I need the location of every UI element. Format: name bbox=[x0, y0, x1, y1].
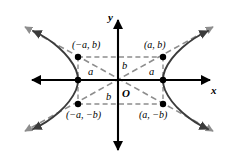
point-label-bottom-right: (a, −b) bbox=[139, 110, 167, 120]
diagram-canvas bbox=[0, 0, 236, 161]
segment-label-b-upper: b bbox=[122, 61, 127, 72]
vertex-marker-right bbox=[160, 77, 166, 83]
point-marker-top-left bbox=[75, 54, 81, 60]
x-axis-label: x bbox=[211, 85, 217, 96]
point-label-top-left: (−a, b) bbox=[72, 40, 100, 50]
coordinate-axes bbox=[32, 20, 210, 150]
point-label-bottom-left: (−a, −b) bbox=[66, 110, 101, 120]
point-marker-bottom-left bbox=[75, 101, 81, 107]
vertex-marker-left bbox=[75, 77, 81, 83]
point-marker-bottom-right bbox=[160, 101, 166, 107]
point-label-top-right: (a, b) bbox=[144, 40, 166, 50]
hyperbola-diagram: (−a, b) (a, b) (−a, −b) (a, −b) a a b b … bbox=[0, 0, 236, 161]
point-marker-top-right bbox=[160, 54, 166, 60]
origin-label: O bbox=[122, 88, 130, 99]
segment-label-a-left: a bbox=[88, 67, 93, 78]
segment-label-a-right: a bbox=[149, 67, 154, 78]
segment-label-b-lower: b bbox=[106, 92, 111, 103]
y-axis-label: y bbox=[108, 12, 113, 23]
